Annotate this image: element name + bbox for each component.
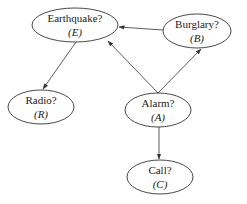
node-radio-label: Radio?	[25, 94, 56, 106]
node-radio-symbol: (R)	[34, 108, 48, 121]
node-alarm-symbol: (A)	[151, 111, 165, 124]
node-call-symbol: (C)	[153, 178, 168, 191]
edge-burglary-to-earthquake	[119, 27, 163, 30]
node-burglary: Burglary? (B)	[163, 14, 231, 48]
edge-alarm-to-earthquake	[108, 41, 158, 93]
node-alarm: Alarm? (A)	[125, 93, 191, 127]
node-alarm-label: Alarm?	[142, 97, 175, 109]
edge-earthquake-to-radio	[43, 42, 76, 89]
node-radio: Radio? (R)	[8, 90, 74, 124]
node-burglary-label: Burglary?	[175, 18, 219, 30]
node-earthquake-label: Earthquake?	[48, 12, 103, 24]
bayes-net-diagram: Earthquake? (E) Burglary? (B) Radio? (R)…	[0, 0, 247, 204]
node-burglary-symbol: (B)	[190, 32, 204, 45]
node-call: Call? (C)	[127, 160, 193, 194]
edge-alarm-to-burglary	[158, 49, 201, 93]
node-earthquake-symbol: (E)	[68, 26, 82, 39]
node-call-label: Call?	[148, 164, 171, 176]
node-earthquake: Earthquake? (E)	[32, 8, 118, 42]
